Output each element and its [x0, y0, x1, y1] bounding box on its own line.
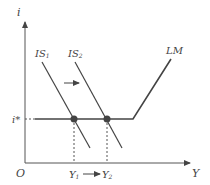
is-lm-diagram: i Y O i* IS1 IS2 LM Y1 Y2 [0, 0, 210, 185]
lm-curve [35, 59, 171, 119]
i-star-label: i* [12, 114, 20, 125]
is2-curve [75, 62, 122, 148]
is1-label: IS1 [34, 48, 50, 59]
x-axis-label: Y [192, 167, 201, 180]
is1-curve [42, 62, 90, 148]
is2-label: IS2 [67, 48, 83, 59]
y2-label: Y2 [102, 169, 113, 180]
y1-label: Y1 [69, 169, 79, 180]
lm-label: LM [165, 45, 184, 56]
origin-label: O [16, 167, 25, 180]
equilibrium-point-1 [71, 116, 78, 123]
equilibrium-point-2 [104, 116, 111, 123]
y-axis-label: i [17, 6, 21, 19]
